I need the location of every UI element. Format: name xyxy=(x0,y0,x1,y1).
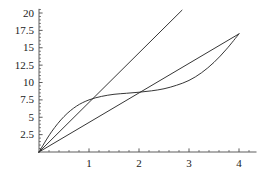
x-tick-label: 1 xyxy=(79,158,99,169)
chart-figure: 2.557.51012.51517.520 1234 xyxy=(0,0,257,171)
curves-group xyxy=(39,10,239,152)
x-tick-label: 4 xyxy=(229,158,249,169)
axes-group xyxy=(38,9,257,153)
x-tick-label: 3 xyxy=(179,158,199,169)
y-tick-label: 2.5 xyxy=(20,129,34,140)
x-tick-label: 2 xyxy=(129,158,149,169)
series-diagonal-line xyxy=(39,34,239,152)
y-tick-label: 10 xyxy=(23,77,34,88)
y-tick-label: 20 xyxy=(23,8,34,19)
y-tick-label: 5 xyxy=(29,112,35,123)
y-tick-label: 12.5 xyxy=(15,60,34,71)
y-tick-label: 7.5 xyxy=(20,94,34,105)
y-tick-label: 17.5 xyxy=(15,25,34,36)
y-tick-label: 15 xyxy=(23,42,34,53)
chart-canvas xyxy=(0,0,257,171)
series-steep-line xyxy=(39,10,182,152)
